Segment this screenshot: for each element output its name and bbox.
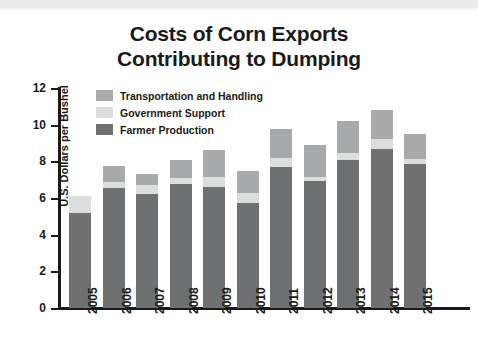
bar-2014	[371, 110, 393, 308]
x-axis-label-2008: 2008	[187, 287, 201, 314]
bar-segment	[337, 160, 359, 309]
legend-swatch-icon	[96, 124, 113, 135]
y-axis-tick	[51, 88, 58, 90]
bar-segment	[69, 196, 91, 213]
bar-segment	[304, 145, 326, 177]
legend-item-label: Farmer Production	[120, 124, 214, 136]
bar-segment	[203, 150, 225, 177]
chart-legend: Transportation and HandlingGovernment Su…	[96, 88, 326, 139]
x-axis-label-2014: 2014	[388, 287, 402, 314]
legend-swatch-icon	[96, 107, 113, 118]
bar-segment	[404, 134, 426, 159]
y-axis-tick-label: 4	[0, 228, 46, 242]
top-decorative-band	[0, 0, 478, 8]
legend-item: Transportation and Handling	[96, 88, 326, 103]
x-axis-label-2015: 2015	[421, 287, 435, 314]
y-axis-tick-label: 2	[0, 264, 46, 278]
bar-2013	[337, 121, 359, 308]
y-axis-tick-label: 10	[0, 118, 46, 132]
bar-segment	[136, 174, 158, 185]
bar-segment	[237, 193, 259, 202]
legend-item: Farmer Production	[96, 122, 326, 137]
y-axis-tick-label: 12	[0, 81, 46, 95]
bar-segment	[371, 149, 393, 308]
legend-swatch-icon	[96, 90, 113, 101]
y-axis-tick-label: 0	[0, 301, 46, 315]
y-axis-tick	[51, 271, 58, 273]
bar-segment	[237, 171, 259, 193]
legend-item-label: Government Support	[120, 107, 225, 119]
y-axis-tick	[51, 235, 58, 237]
y-axis-tick-label: 6	[0, 191, 46, 205]
bar-segment	[203, 177, 225, 187]
x-axis-label-2005: 2005	[86, 287, 100, 314]
y-axis-tick	[51, 161, 58, 163]
bar-segment	[270, 158, 292, 167]
bar-segment	[103, 166, 125, 182]
bar-2015	[404, 134, 426, 308]
x-axis-label-2009: 2009	[220, 287, 234, 314]
bar-segment	[270, 167, 292, 308]
x-axis-label-2010: 2010	[254, 287, 268, 314]
chart-title-line-1: Costs of Corn Exports	[0, 22, 478, 47]
bar-2011	[270, 129, 292, 308]
bar-segment	[371, 110, 393, 139]
top-band-edge	[0, 8, 478, 10]
y-axis-tick	[51, 308, 58, 310]
legend-item: Government Support	[96, 105, 326, 120]
x-axis-label-2006: 2006	[120, 287, 134, 314]
y-axis-tick	[51, 198, 58, 200]
bar-segment	[337, 121, 359, 153]
chart-title: Costs of Corn Exports Contributing to Du…	[0, 22, 478, 71]
x-axis-label-2012: 2012	[321, 287, 335, 314]
chart-title-line-2: Contributing to Dumping	[0, 47, 478, 72]
x-axis-label-2011: 2011	[287, 288, 301, 314]
x-axis-label-2007: 2007	[153, 287, 167, 314]
bar-2009	[203, 150, 225, 308]
bar-2008	[170, 160, 192, 308]
y-axis-tick	[51, 125, 58, 127]
legend-item-label: Transportation and Handling	[120, 90, 263, 102]
bar-segment	[371, 139, 393, 149]
bar-segment	[170, 160, 192, 177]
bar-2012	[304, 145, 326, 308]
x-axis-label-2013: 2013	[354, 287, 368, 314]
chart-page: Costs of Corn Exports Contributing to Du…	[0, 0, 478, 358]
bar-segment	[136, 185, 158, 194]
y-axis-tick-label: 8	[0, 154, 46, 168]
